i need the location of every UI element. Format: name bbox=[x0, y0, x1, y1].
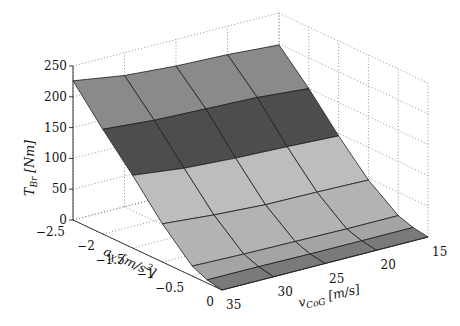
z-tick-label: 150 bbox=[44, 121, 67, 135]
surface-chart: 050100150200250−2.5−2−1.5−1−0.5015202530… bbox=[0, 0, 460, 326]
y-axis-label: aX [m/s2] bbox=[101, 242, 159, 282]
x-tick-label: 20 bbox=[381, 258, 396, 272]
x-tick-label: 35 bbox=[226, 298, 241, 312]
grid-line bbox=[279, 13, 428, 83]
x-tick-label: 30 bbox=[278, 285, 293, 299]
y-tick-label: −2.5 bbox=[36, 225, 65, 239]
y-tick-label: 0 bbox=[206, 295, 214, 309]
z-tick-label: 250 bbox=[44, 59, 67, 73]
y-tick-label: −2 bbox=[77, 239, 95, 253]
z-axis-label: TBr [Nm] bbox=[22, 140, 39, 196]
y-tick-label: −0.5 bbox=[155, 281, 184, 295]
x-tick-label: 25 bbox=[329, 272, 344, 286]
z-tick-label: 100 bbox=[44, 151, 67, 165]
x-axis-label: vCoG [m/s] bbox=[297, 281, 362, 312]
x-tick-label: 15 bbox=[432, 245, 447, 259]
z-tick-label: 50 bbox=[52, 182, 67, 196]
z-tick-label: 200 bbox=[44, 90, 67, 104]
